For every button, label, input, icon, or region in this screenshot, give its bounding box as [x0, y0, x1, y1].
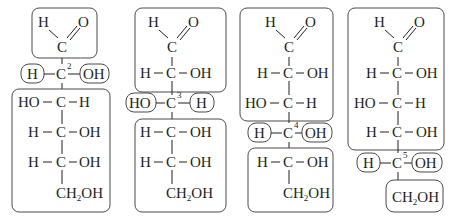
row-carbon: C [283, 154, 293, 170]
bond [49, 30, 58, 38]
double-bond [297, 28, 307, 40]
chiral-carbon: C [56, 66, 66, 82]
aldehyde-o: O [305, 14, 316, 30]
row-right: OH [190, 124, 212, 140]
row-right: OH [416, 124, 438, 140]
row-right: H [79, 94, 90, 110]
substituent-left: HO [129, 95, 151, 111]
row-right: OH [307, 154, 329, 170]
aldehyde-h: H [148, 14, 159, 30]
row-right: OH [79, 154, 101, 170]
row-left: H [257, 154, 268, 170]
double-bond [180, 28, 190, 40]
double-bond [294, 26, 304, 38]
row-left: HO [354, 95, 376, 111]
row-right: OH [190, 65, 212, 81]
panel-c4: H O C H C OH HO C H H C 4 OH H C OH [240, 8, 333, 212]
aldehyde-h: H [265, 14, 276, 30]
aldehyde-o: O [78, 14, 89, 30]
bond [385, 30, 394, 38]
panel-c3: H O C H C OH HO C 3 H H C OH H C OH [126, 8, 226, 212]
carbon-number-label: 4 [294, 120, 299, 130]
carbon-number-label: 2 [67, 61, 72, 71]
carbon-number-label: 5 [403, 150, 408, 160]
row-left: H [366, 124, 377, 140]
row-carbon: C [392, 65, 402, 81]
row-left: H [28, 154, 39, 170]
row-carbon: C [283, 65, 293, 81]
ch2oh-terminal: CH2OH [283, 185, 330, 203]
substituent-right: OH [83, 66, 105, 82]
substituent-right: H [196, 95, 207, 111]
row-left: H [140, 65, 151, 81]
panel-c2: H O C H C 2 OH HO C H H C OH H C OH [12, 8, 110, 212]
row-carbon: C [166, 124, 176, 140]
row-right: H [415, 95, 426, 111]
ch2oh-terminal: CH2OH [392, 189, 439, 207]
substituent-left: H [27, 66, 38, 82]
row-carbon: C [392, 124, 402, 140]
row-carbon: C [56, 94, 66, 110]
aldehyde-o: O [414, 14, 425, 30]
row-carbon: C [283, 95, 293, 111]
row-left: HO [245, 95, 267, 111]
row-right: OH [307, 65, 329, 81]
ch2oh-terminal: CH2OH [56, 185, 103, 203]
row-left: H [257, 65, 268, 81]
row-right: OH [190, 154, 212, 170]
row-right: OH [79, 124, 101, 140]
ch2oh-terminal: CH2OH [166, 185, 213, 203]
carbon-number-label: 3 [177, 90, 182, 100]
row-carbon: C [56, 154, 66, 170]
row-carbon: C [56, 124, 66, 140]
substituent-left: H [363, 155, 374, 171]
row-left: H [140, 124, 151, 140]
glucose-chiral-centers-diagram: H O C H C 2 OH HO C H H C OH H C OH [0, 0, 456, 224]
substituent-right: OH [415, 155, 437, 171]
aldehyde-h: H [38, 14, 49, 30]
double-bond [70, 28, 80, 40]
carbon-1: C [57, 39, 67, 55]
chiral-carbon: C [392, 155, 402, 171]
chiral-carbon: C [166, 95, 176, 111]
double-bond [177, 26, 187, 38]
row-carbon: C [392, 95, 402, 111]
bond [276, 30, 285, 38]
row-left: H [140, 154, 151, 170]
row-left: H [366, 65, 377, 81]
row-carbon: C [166, 154, 176, 170]
carbon-1: C [167, 39, 177, 55]
carbon-1: C [284, 39, 294, 55]
substituent-right: OH [305, 125, 327, 141]
row-left: H [28, 124, 39, 140]
chiral-carbon: C [283, 125, 293, 141]
row-right: H [306, 95, 317, 111]
panel-c5: H O C H C OH HO C H H C OH H C 5 OH [348, 8, 444, 212]
row-carbon: C [166, 65, 176, 81]
row-left: HO [18, 94, 40, 110]
row-right: OH [416, 65, 438, 81]
double-bond [403, 26, 413, 38]
double-bond [406, 28, 416, 40]
aldehyde-o: O [188, 14, 199, 30]
substituent-left: H [254, 125, 265, 141]
double-bond [67, 26, 77, 38]
carbon-1: C [393, 39, 403, 55]
bond [159, 30, 168, 38]
aldehyde-h: H [374, 14, 385, 30]
